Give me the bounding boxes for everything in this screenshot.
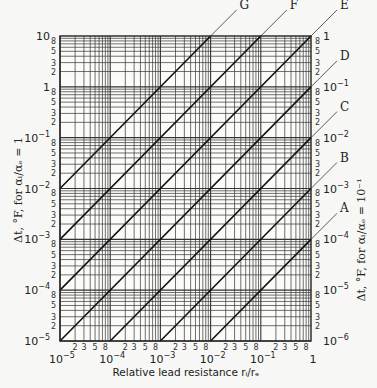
- svg-text:10−6: 10−6: [323, 333, 349, 348]
- svg-text:8: 8: [315, 88, 320, 97]
- svg-text:3: 3: [132, 343, 137, 352]
- svg-text:5: 5: [93, 343, 98, 352]
- y-axis-right-label: Δt, °F, for αₗ/αₑ = 10⁻¹: [355, 178, 368, 301]
- svg-text:2: 2: [51, 118, 56, 127]
- svg-text:10−1: 10−1: [24, 130, 50, 145]
- svg-text:8: 8: [51, 139, 56, 148]
- svg-text:1: 1: [323, 30, 330, 43]
- svg-text:10−4: 10−4: [99, 351, 125, 366]
- svg-text:C: C: [340, 100, 349, 114]
- svg-text:3: 3: [51, 160, 56, 169]
- svg-text:3: 3: [51, 313, 56, 322]
- svg-text:8: 8: [103, 343, 108, 352]
- svg-text:5: 5: [315, 200, 320, 209]
- svg-text:8: 8: [51, 37, 56, 46]
- svg-text:8: 8: [253, 343, 258, 352]
- svg-text:10−2: 10−2: [24, 181, 50, 196]
- svg-text:8: 8: [51, 291, 56, 300]
- svg-text:2: 2: [51, 322, 56, 331]
- svg-text:2: 2: [315, 118, 320, 127]
- svg-text:8: 8: [51, 88, 56, 97]
- svg-text:10−2: 10−2: [323, 130, 349, 145]
- svg-text:5: 5: [51, 301, 56, 310]
- svg-text:A: A: [339, 201, 349, 215]
- x-axis-label: Relative lead resistance rₗ/rₑ: [113, 366, 260, 378]
- svg-text:10−3: 10−3: [323, 181, 349, 196]
- svg-text:2: 2: [315, 271, 320, 280]
- svg-text:8: 8: [315, 189, 320, 198]
- svg-text:8: 8: [315, 37, 320, 46]
- svg-text:8: 8: [304, 343, 309, 352]
- svg-text:8: 8: [203, 343, 208, 352]
- svg-text:3: 3: [51, 109, 56, 118]
- svg-text:5: 5: [315, 98, 320, 107]
- svg-text:3: 3: [51, 59, 56, 68]
- svg-text:3: 3: [232, 343, 237, 352]
- svg-text:8: 8: [315, 240, 320, 249]
- svg-text:3: 3: [315, 160, 320, 169]
- svg-text:10−1: 10−1: [250, 351, 276, 366]
- svg-text:5: 5: [51, 251, 56, 260]
- svg-text:3: 3: [51, 262, 56, 271]
- svg-text:G: G: [240, 0, 250, 12]
- y-axis-left-label: Δt, °F, for αₗ/αₑ = 1: [12, 137, 25, 243]
- svg-text:5: 5: [51, 98, 56, 107]
- svg-text:5: 5: [143, 343, 148, 352]
- svg-text:10−3: 10−3: [24, 231, 50, 246]
- svg-text:10−2: 10−2: [200, 351, 226, 366]
- svg-text:10−5: 10−5: [49, 351, 75, 366]
- svg-text:2: 2: [315, 68, 320, 77]
- svg-text:2: 2: [315, 169, 320, 178]
- svg-text:10−3: 10−3: [150, 351, 176, 366]
- svg-text:2: 2: [51, 271, 56, 280]
- svg-text:10: 10: [36, 30, 50, 43]
- svg-text:1: 1: [43, 81, 50, 94]
- svg-text:3: 3: [315, 211, 320, 220]
- svg-text:3: 3: [315, 262, 320, 271]
- svg-text:5: 5: [315, 47, 320, 56]
- svg-text:8: 8: [315, 291, 320, 300]
- svg-text:3: 3: [315, 109, 320, 118]
- svg-text:3: 3: [81, 343, 86, 352]
- log-log-chart: ABCDEFG 23582358235823582358223355882233…: [0, 0, 377, 388]
- svg-text:2: 2: [315, 220, 320, 229]
- svg-text:B: B: [340, 151, 349, 165]
- svg-text:8: 8: [51, 189, 56, 198]
- svg-text:5: 5: [51, 47, 56, 56]
- svg-text:10−5: 10−5: [323, 282, 349, 297]
- svg-text:10−4: 10−4: [24, 282, 50, 297]
- svg-text:5: 5: [51, 200, 56, 209]
- svg-text:5: 5: [193, 343, 198, 352]
- svg-text:5: 5: [315, 301, 320, 310]
- svg-text:5: 5: [315, 251, 320, 260]
- svg-text:2: 2: [51, 169, 56, 178]
- svg-text:8: 8: [51, 240, 56, 249]
- svg-text:5: 5: [315, 149, 320, 158]
- svg-text:D: D: [340, 49, 350, 63]
- svg-text:2: 2: [315, 322, 320, 331]
- svg-text:5: 5: [51, 149, 56, 158]
- svg-text:8: 8: [315, 139, 320, 148]
- svg-text:2: 2: [51, 68, 56, 77]
- svg-text:2: 2: [51, 220, 56, 229]
- svg-text:E: E: [340, 0, 349, 12]
- svg-text:5: 5: [293, 343, 298, 352]
- svg-text:10−1: 10−1: [323, 79, 349, 94]
- svg-text:3: 3: [315, 59, 320, 68]
- svg-text:10−5: 10−5: [24, 333, 50, 348]
- svg-text:F: F: [290, 0, 298, 12]
- svg-text:8: 8: [153, 343, 158, 352]
- grid: [60, 36, 311, 341]
- svg-text:5: 5: [243, 343, 248, 352]
- svg-text:3: 3: [315, 313, 320, 322]
- svg-text:3: 3: [282, 343, 287, 352]
- svg-text:3: 3: [182, 343, 187, 352]
- svg-text:1: 1: [310, 353, 317, 366]
- svg-text:10−4: 10−4: [323, 231, 349, 246]
- svg-text:3: 3: [51, 211, 56, 220]
